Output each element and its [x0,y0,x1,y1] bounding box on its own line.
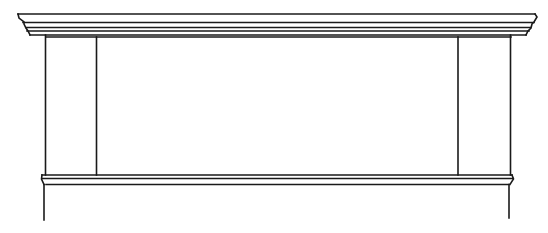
lower-shelf [42,175,514,185]
mantel-drawing [0,0,548,233]
left-pilaster [46,35,97,175]
legs [44,185,509,221]
right-pilaster [458,35,511,175]
top-cornice [18,14,537,37]
